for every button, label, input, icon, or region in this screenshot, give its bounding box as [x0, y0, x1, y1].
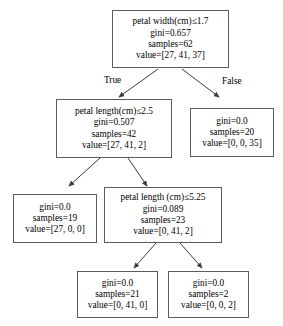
edge-label-true: True	[104, 75, 121, 85]
node-value: value=[27, 41, 2]	[82, 140, 146, 151]
node-value: value=[0, 41, 2]	[133, 226, 192, 237]
edge-root-to-right	[182, 69, 219, 97]
node-gini: gini=0.0	[193, 278, 224, 289]
edge-leftright-to-left	[134, 243, 156, 268]
edge-left-to-leftleft	[69, 158, 100, 186]
tree-node-left[interactable]: petal length(cm)≤2.5 gini=0.507 samples=…	[56, 99, 172, 158]
node-samples: samples=21	[95, 289, 140, 300]
node-value: value=[27, 0, 0]	[25, 224, 84, 235]
tree-node-left-right[interactable]: petal length (cm)≤5.25 gini=0.089 sample…	[104, 187, 222, 243]
node-value: value=[0, 0, 2]	[181, 300, 236, 311]
tree-node-root[interactable]: petal width(cm)≤1.7 gini=0.657 samples=6…	[112, 10, 229, 68]
node-gini: gini=0.507	[94, 117, 135, 128]
node-samples: samples=42	[92, 129, 137, 140]
node-condition: petal width(cm)≤1.7	[133, 16, 209, 27]
node-gini: gini=0.089	[143, 204, 184, 215]
edge-label-false: False	[222, 76, 242, 86]
node-samples: samples=2	[189, 289, 229, 300]
node-value: value=[0, 41, 0]	[88, 300, 147, 311]
node-samples: samples=23	[141, 215, 186, 226]
node-gini: gini=0.0	[216, 116, 247, 127]
edge-leftright-to-right	[180, 243, 202, 268]
edge-root-to-left	[119, 69, 158, 97]
node-gini: gini=0.657	[150, 28, 191, 39]
node-gini: gini=0.0	[39, 202, 70, 213]
node-gini: gini=0.0	[102, 278, 133, 289]
node-value: value=[0, 0, 35]	[202, 138, 261, 149]
tree-node-left-right-right[interactable]: gini=0.0 samples=2 value=[0, 0, 2]	[168, 271, 249, 318]
tree-node-left-left[interactable]: gini=0.0 samples=19 value=[27, 0, 0]	[13, 194, 97, 243]
node-value: value=[27, 41, 37]	[136, 50, 205, 61]
node-condition: petal length (cm)≤5.25	[121, 192, 206, 203]
node-samples: samples=19	[33, 213, 78, 224]
node-condition: petal length(cm)≤2.5	[75, 106, 153, 117]
decision-tree-diagram: petal width(cm)≤1.7 gini=0.657 samples=6…	[0, 0, 283, 326]
node-samples: samples=20	[210, 127, 255, 138]
edge-left-to-leftright	[128, 158, 147, 186]
tree-node-left-right-left[interactable]: gini=0.0 samples=21 value=[0, 41, 0]	[77, 271, 158, 318]
tree-node-right[interactable]: gini=0.0 samples=20 value=[0, 0, 35]	[190, 108, 274, 157]
node-samples: samples=62	[148, 39, 193, 50]
